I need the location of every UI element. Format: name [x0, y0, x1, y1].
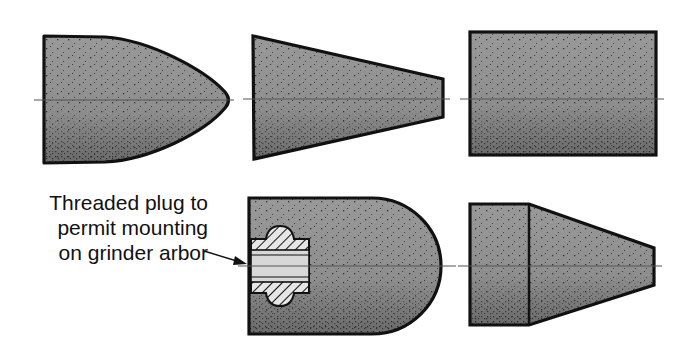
leader-arrow — [204, 251, 247, 265]
annotation-line-2: permit mounting — [30, 215, 208, 240]
cylinder-taper-shape — [458, 204, 662, 325]
threaded-plug-annotation: Threaded plug to permit mounting on grin… — [30, 190, 208, 265]
tapered-cone-shape — [243, 36, 450, 159]
grinding-points-diagram — [0, 0, 690, 354]
round-end-plug-shape — [238, 198, 456, 334]
cylinder-shape — [460, 32, 664, 155]
bullet-point-shape — [34, 36, 234, 163]
annotation-line-1: Threaded plug to — [30, 190, 208, 215]
annotation-line-3: on grinder arbor — [30, 240, 208, 265]
